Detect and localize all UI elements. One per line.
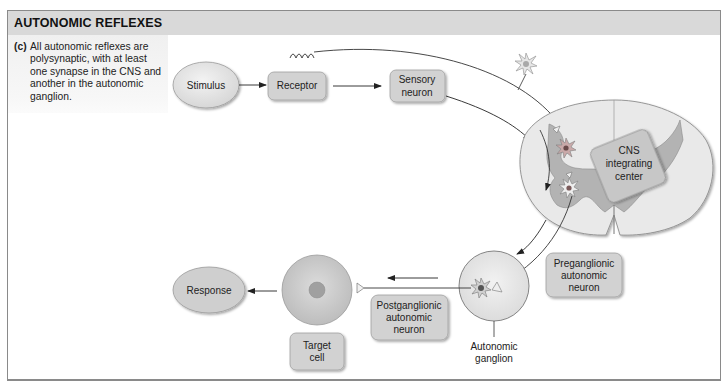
ganglion-label-1: Autonomic	[470, 341, 517, 352]
preganglionic-label-3: neuron	[568, 282, 599, 293]
ganglion-label-2: ganglion	[475, 353, 513, 364]
stimulus-label: Stimulus	[187, 80, 225, 91]
sensory-neuron-node: Sensory neuron	[390, 70, 445, 102]
receptor-coil-icon	[290, 54, 314, 58]
nucleus-icon	[309, 282, 325, 298]
sensory-neuron-label-2: neuron	[401, 87, 432, 98]
receptor-label: Receptor	[277, 80, 318, 91]
stimulus-node: Stimulus	[173, 62, 239, 108]
axon-terminal-icon	[357, 283, 364, 293]
preganglionic-label-2: autonomic	[561, 270, 607, 281]
postganglionic-label-2: autonomic	[386, 312, 432, 323]
response-node: Response	[173, 267, 245, 313]
autonomic-ganglion-node: Autonomic ganglion	[459, 251, 529, 364]
response-label: Response	[186, 285, 231, 296]
target-cell-label-1: Target	[303, 340, 331, 351]
arrow-cns-ganglion	[517, 220, 546, 254]
cns-label-3: center	[615, 171, 643, 182]
postganglionic-label-3: neuron	[393, 324, 424, 335]
reflex-diagram: Stimulus Receptor Sensory neuron	[0, 0, 728, 384]
receptor-node: Receptor	[268, 72, 326, 100]
cns-label-1: CNS	[618, 145, 639, 156]
arrow-sensory-cns	[446, 96, 530, 140]
target-cell-node: Target cell	[282, 255, 352, 370]
postganglionic-label-1: Postganglionic	[376, 300, 441, 311]
preganglionic-label-1: Preganglionic	[554, 258, 615, 269]
target-cell-label-2: cell	[309, 352, 324, 363]
postganglionic-neuron-node: Postganglionic autonomic neuron	[371, 295, 448, 340]
sensory-neuron-label-1: Sensory	[399, 74, 436, 85]
cns-label-2: integrating	[606, 158, 653, 169]
sensory-cell-body-icon	[515, 53, 537, 75]
sensory-cell-stalk	[518, 74, 526, 90]
preganglionic-neuron-node: Preganglionic autonomic neuron	[546, 253, 622, 297]
